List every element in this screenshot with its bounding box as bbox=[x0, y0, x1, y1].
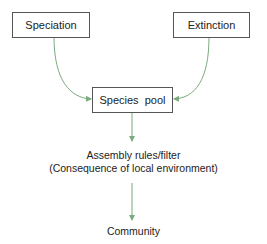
extinction-label: Extinction bbox=[188, 19, 236, 31]
edge-speciation-to-pool bbox=[54, 37, 91, 99]
edge-extinction-to-pool bbox=[174, 37, 209, 99]
community-label: Community bbox=[107, 225, 160, 237]
species-pool-label: Species pool bbox=[99, 94, 165, 106]
speciation-node: Speciation bbox=[12, 12, 90, 38]
assembly-rules-node: Assembly rules/filter (Consequence of lo… bbox=[0, 149, 267, 175]
community-node: Community bbox=[0, 225, 267, 237]
extinction-node: Extinction bbox=[173, 12, 250, 38]
species-pool-node: Species pool bbox=[92, 87, 173, 113]
assembly-rules-sublabel: (Consequence of local environment) bbox=[0, 162, 267, 175]
speciation-label: Speciation bbox=[25, 19, 76, 31]
assembly-rules-label: Assembly rules/filter bbox=[0, 149, 267, 162]
